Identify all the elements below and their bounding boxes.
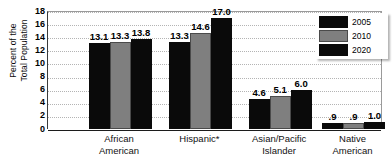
bar-chart: Percent of the Total Population 18161412… <box>0 0 392 168</box>
category-label: Asian/Pacific Islander <box>237 133 321 156</box>
bar-value-label: .9 <box>350 112 358 122</box>
bar-value-label: 6.0 <box>295 79 308 89</box>
bar-column[interactable]: 5.1 <box>270 12 291 129</box>
legend: 200520102020 <box>316 13 388 59</box>
x-axis-category-labels: African AmericanHispanic*Asian/Pacific I… <box>47 133 382 167</box>
legend-item-2010[interactable]: 2010 <box>319 29 386 43</box>
y-axis-tick-0: 0 <box>25 125 45 134</box>
bar-group: 4.65.16.0 <box>249 12 312 129</box>
bar-group: 13.314.617.0 <box>169 12 232 129</box>
legend-item-2020[interactable]: 2020 <box>319 43 386 57</box>
bar-value-label: 14.6 <box>191 22 210 32</box>
legend-swatch-icon <box>319 16 348 28</box>
bar-group: 13.113.313.8 <box>89 12 152 129</box>
y-axis-tick-10: 10 <box>25 59 45 68</box>
y-axis-tick-labels: 181614121086420 <box>25 11 45 129</box>
legend-item-2005[interactable]: 2005 <box>319 15 386 29</box>
bar-2010-2[interactable] <box>190 33 211 129</box>
bar-value-label: .9 <box>329 112 337 122</box>
legend-swatch-icon <box>319 44 348 56</box>
y-axis-tick-12: 12 <box>25 46 45 55</box>
bar-value-label: 13.3 <box>111 31 130 41</box>
bar-value-label: 13.3 <box>170 31 189 41</box>
bar-2005-4[interactable] <box>322 123 343 129</box>
bar-value-label: 1.0 <box>368 111 381 121</box>
category-label: African American <box>77 133 161 156</box>
bar-value-label: 4.6 <box>253 88 266 98</box>
bar-column[interactable]: 13.8 <box>131 12 152 129</box>
y-axis-tick-18: 18 <box>25 7 45 16</box>
category-label: Native American <box>311 133 392 156</box>
y-axis-tick-14: 14 <box>25 33 45 42</box>
bar-value-label: 5.1 <box>274 85 287 95</box>
bar-2020-3[interactable] <box>291 90 312 129</box>
bar-2020-4[interactable] <box>364 122 385 129</box>
legend-label: 2010 <box>352 32 371 41</box>
bar-2010-1[interactable] <box>110 42 131 129</box>
category-label: Hispanic* <box>158 133 242 145</box>
bar-column[interactable]: 13.3 <box>169 12 190 129</box>
bar-value-label: 17.0 <box>212 7 231 17</box>
legend-label: 2020 <box>352 46 371 55</box>
bar-2020-1[interactable] <box>131 39 152 129</box>
legend-label: 2005 <box>352 18 371 27</box>
bar-value-label: 13.1 <box>90 32 109 42</box>
y-axis-tick-4: 4 <box>25 98 45 107</box>
bar-column[interactable]: 13.1 <box>89 12 110 129</box>
y-axis-tick-6: 6 <box>25 85 45 94</box>
bar-2020-2[interactable] <box>211 18 232 129</box>
bar-column[interactable]: 17.0 <box>211 12 232 129</box>
bar-2010-4[interactable] <box>343 123 364 129</box>
bar-2005-1[interactable] <box>89 43 110 129</box>
legend-swatch-icon <box>319 30 348 42</box>
y-axis-tick-2: 2 <box>25 111 45 120</box>
axis-baseline <box>48 130 381 131</box>
bar-column[interactable]: 14.6 <box>190 12 211 129</box>
bar-column[interactable]: 4.6 <box>249 12 270 129</box>
bar-column[interactable]: 13.3 <box>110 12 131 129</box>
bar-2005-3[interactable] <box>249 99 270 129</box>
y-axis-tick-8: 8 <box>25 72 45 81</box>
y-axis-tick-16: 16 <box>25 20 45 29</box>
bar-column[interactable]: 6.0 <box>291 12 312 129</box>
bar-2005-2[interactable] <box>169 42 190 129</box>
bar-value-label: 13.8 <box>132 28 151 38</box>
bar-2010-3[interactable] <box>270 96 291 129</box>
